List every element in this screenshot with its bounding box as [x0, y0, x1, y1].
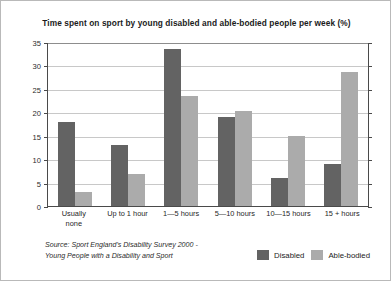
bar — [271, 178, 288, 206]
axis-tick — [368, 66, 372, 67]
chart-figure: Time spent on sport by young disabled an… — [0, 0, 391, 281]
y-tick-label: 15 — [23, 132, 41, 141]
bar — [324, 164, 341, 206]
bar-group — [101, 43, 154, 206]
bar — [341, 72, 358, 206]
bar — [111, 145, 128, 206]
y-tick-label: 0 — [23, 203, 41, 212]
bar — [181, 96, 198, 206]
bar — [75, 192, 92, 206]
axis-tick — [368, 160, 372, 161]
legend-label: Able-bodied — [328, 251, 370, 260]
bar-group — [315, 43, 368, 206]
bar — [218, 117, 235, 206]
x-tick-label: 5—10 hours — [208, 209, 262, 228]
bar-group — [208, 43, 261, 206]
y-axis-labels: 05101520253035 — [19, 43, 41, 207]
x-tick-label: Usuallynone — [47, 209, 101, 228]
x-tick-label: Up to 1 hour — [101, 209, 155, 228]
plot-area-wrapper — [47, 43, 369, 207]
legend-label: Disabled — [274, 251, 304, 260]
x-tick-label: 15 + hours — [315, 209, 369, 228]
bar — [288, 136, 305, 206]
bar-group — [261, 43, 314, 206]
axis-tick — [368, 137, 372, 138]
source-note: Source: Sport England's Disability Surve… — [45, 240, 245, 261]
bar-groups — [48, 43, 368, 206]
legend-swatch-icon — [257, 250, 269, 260]
legend-swatch-icon — [311, 250, 323, 260]
bar — [235, 111, 252, 206]
plot-area — [47, 43, 369, 207]
legend-item[interactable]: Disabled — [257, 250, 304, 260]
axis-tick — [368, 43, 372, 44]
x-tick-label: 1—5 hours — [154, 209, 208, 228]
bar-group — [48, 43, 101, 206]
chart-legend: DisabledAble-bodied — [257, 250, 370, 260]
x-tick-label: 10—15 hours — [262, 209, 316, 228]
legend-item[interactable]: Able-bodied — [311, 250, 370, 260]
y-tick-label: 20 — [23, 109, 41, 118]
y-tick-label: 35 — [23, 39, 41, 48]
axis-tick — [368, 90, 372, 91]
axis-tick — [368, 207, 372, 208]
y-tick-label: 5 — [23, 179, 41, 188]
y-tick-label: 30 — [23, 62, 41, 71]
bar-group — [155, 43, 208, 206]
x-axis-labels: UsuallynoneUp to 1 hour1—5 hours5—10 hou… — [47, 209, 369, 228]
bar — [58, 122, 75, 206]
chart-title: Time spent on sport by young disabled an… — [1, 18, 391, 28]
axis-tick — [44, 207, 48, 208]
axis-tick — [368, 184, 372, 185]
axis-tick — [368, 113, 372, 114]
y-tick-label: 10 — [23, 156, 41, 165]
bar — [164, 49, 181, 206]
bar — [128, 174, 145, 206]
y-tick-label: 25 — [23, 85, 41, 94]
